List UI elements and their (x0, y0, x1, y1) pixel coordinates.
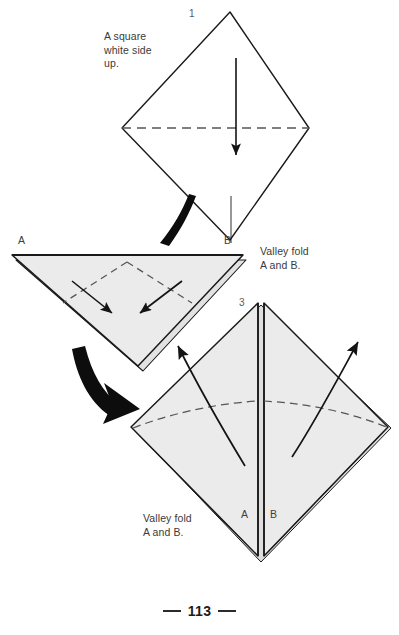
step-2-caption: Valley fold A and B. (260, 245, 309, 272)
step-2-point-a-label: A (18, 234, 25, 246)
footer-rule-left (163, 610, 181, 612)
step2-triangle-paper (12, 255, 243, 366)
page-number: 113 (188, 603, 212, 619)
step-3-point-b-label: B (270, 508, 277, 520)
origami-instruction-page: 1 A square white side up. B A Valley fol… (0, 0, 399, 635)
origami-diagram (0, 0, 399, 635)
turn-arrow-body (72, 346, 118, 416)
page-footer: 113 (0, 601, 399, 619)
step-3-caption: Valley fold A and B. (143, 512, 192, 539)
step-1-point-b-label: B (224, 234, 231, 246)
step-3-number: 3 (239, 297, 245, 308)
step-1-caption: A square white side up. (104, 30, 152, 71)
step3-right-half (264, 303, 388, 556)
step-1-number: 1 (189, 8, 195, 19)
footer-rule-right (218, 610, 236, 612)
step-3-point-a-label: A (241, 508, 248, 520)
connector-stroke-1 (160, 194, 196, 246)
